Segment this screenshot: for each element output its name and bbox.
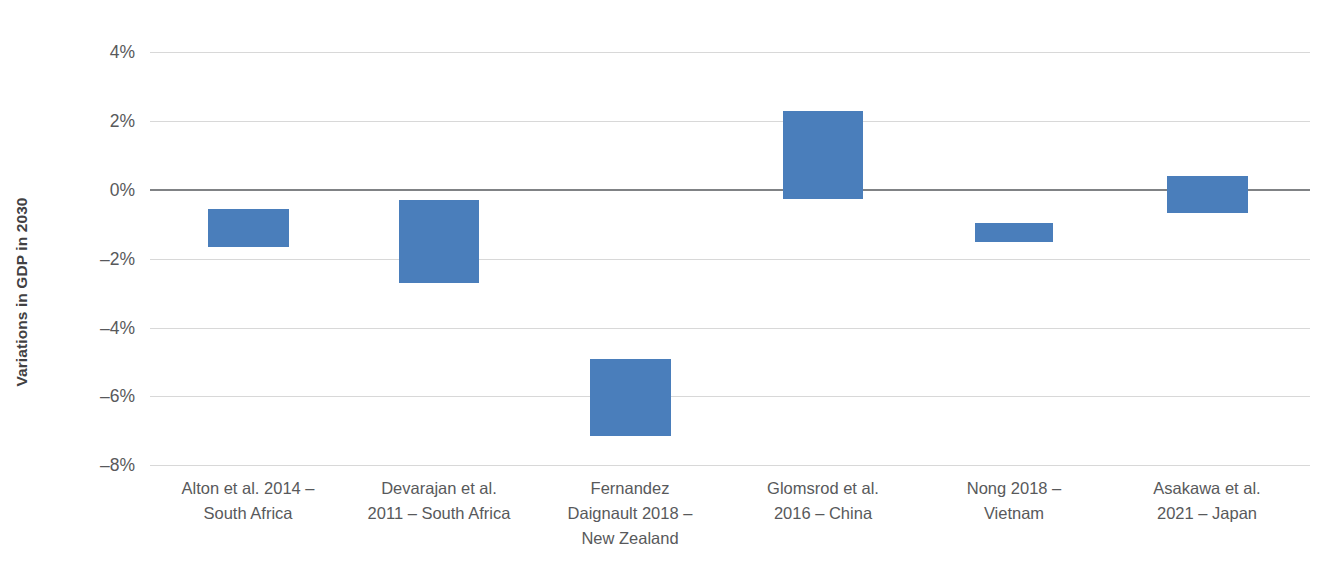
gridline xyxy=(150,465,1310,466)
x-axis-category-labels: Alton et al. 2014 –South AfricaDevarajan… xyxy=(150,476,1310,581)
bar xyxy=(1167,176,1248,213)
bar xyxy=(399,200,479,283)
y-tick-label: 2% xyxy=(110,111,135,132)
y-tick-label: 4% xyxy=(110,42,135,63)
gridline xyxy=(150,396,1310,397)
zero-axis-line xyxy=(150,189,1310,191)
gridline xyxy=(150,52,1310,53)
y-axis-tick-labels: 4%2%0%–2%–4%–6%–8% xyxy=(55,0,135,470)
bar xyxy=(590,359,671,436)
plot-area xyxy=(150,0,1310,470)
x-label-line: Asakawa et al. xyxy=(1092,476,1322,501)
gridline xyxy=(150,121,1310,122)
gridline xyxy=(150,259,1310,260)
gridline xyxy=(150,328,1310,329)
x-axis-category-label: Asakawa et al.2021 – Japan xyxy=(1092,476,1322,526)
bar xyxy=(975,223,1053,242)
x-label-line: 2021 – Japan xyxy=(1092,501,1322,526)
y-tick-label: –6% xyxy=(100,386,135,407)
y-axis-title: Variations in GDP in 2030 xyxy=(0,0,44,584)
y-tick-label: –4% xyxy=(100,317,135,338)
chart-figure: Variations in GDP in 2030 4%2%0%–2%–4%–6… xyxy=(0,0,1335,584)
y-tick-label: –8% xyxy=(100,455,135,476)
bar xyxy=(208,209,289,247)
bar xyxy=(783,111,863,199)
y-tick-label: 0% xyxy=(110,180,135,201)
y-tick-label: –2% xyxy=(100,248,135,269)
x-label-line: New Zealand xyxy=(515,526,745,551)
